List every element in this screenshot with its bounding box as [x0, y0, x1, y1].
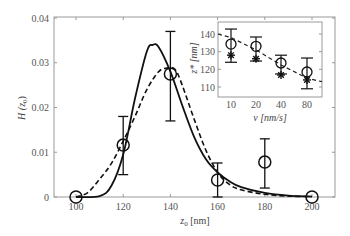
inset-chart: 11012013014010204080 [200, 22, 322, 110]
inset-star-marker [277, 71, 285, 79]
inset-x-tick-label: 20 [251, 99, 261, 110]
inset-x-tick-label: 80 [302, 99, 312, 110]
x-tick-label: 120 [116, 201, 131, 212]
data-point [164, 31, 176, 121]
x-axis-label: z0 [nm] [179, 215, 209, 228]
x-tick-label: 140 [163, 201, 178, 212]
y-tick-label: 0 [44, 192, 49, 203]
y-tick-label: 0.01 [32, 147, 50, 158]
y-tick-label: 0.03 [32, 57, 50, 68]
inset-x-tick-label: 10 [226, 99, 236, 110]
inset-y-tick-label: 110 [200, 82, 215, 93]
data-point [259, 139, 271, 188]
inset-star-marker [252, 55, 260, 63]
y-axis-label: H (z0) [16, 96, 29, 121]
inset-y-tick-label: 120 [200, 64, 215, 75]
x-tick-label: 180 [257, 201, 272, 212]
y-tick-label: 0.02 [32, 102, 50, 113]
y-tick-label: 0.04 [32, 13, 50, 24]
inset-x-tick-label: 40 [276, 99, 286, 110]
inset-star-marker [227, 51, 235, 59]
inset-y-tick-label: 140 [200, 29, 215, 40]
chart: 10012014016018020000.010.020.030.04 1101… [0, 0, 350, 236]
inset-y-axis-label: z* [nm] [188, 42, 199, 75]
inset-y-tick-label: 130 [200, 46, 215, 57]
x-tick-label: 160 [210, 201, 225, 212]
inset-star-marker [303, 76, 311, 84]
inset-x-axis-label: v [nm/s] [253, 112, 287, 123]
